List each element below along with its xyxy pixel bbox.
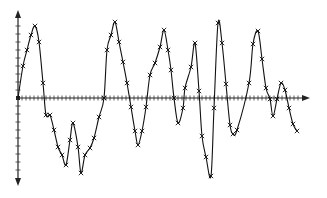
y-axis-down-arrow-icon — [15, 178, 21, 186]
signal-curve — [18, 20, 297, 178]
line-chart — [0, 0, 327, 198]
x-axis-arrow-icon — [302, 95, 310, 101]
x-marker-icon — [136, 143, 140, 147]
x-marker-icon — [33, 24, 37, 28]
x-marker-icon — [231, 132, 235, 136]
x-marker-icon — [113, 20, 117, 24]
x-marker-icon — [295, 129, 299, 133]
x-marker-icon — [71, 121, 75, 125]
x-marker-icon — [88, 146, 92, 150]
x-marker-icon — [162, 28, 166, 32]
data-markers — [21, 20, 299, 178]
y-axis-up-arrow-icon — [15, 10, 21, 18]
x-marker-icon — [176, 121, 180, 125]
x-marker-icon — [271, 114, 275, 118]
